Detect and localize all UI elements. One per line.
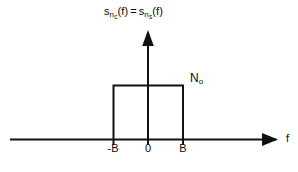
x-axis-arrowhead-icon <box>262 133 278 146</box>
tick-label-positive-b: B <box>171 143 195 154</box>
amplitude-label-base: N <box>190 71 199 85</box>
title-argument-left: (f) <box>118 5 129 17</box>
title-argument-right: (f) <box>152 5 163 17</box>
amplitude-label-subscript: o <box>199 77 203 86</box>
tick-label-zero: 0 <box>136 143 160 154</box>
spectral-density-figure: snc(f)=sns(f) No -B 0 B f <box>0 0 298 172</box>
amplitude-label: No <box>190 72 203 86</box>
plot-title: snc(f)=sns(f) <box>104 6 163 21</box>
x-axis-label: f <box>286 133 289 144</box>
tick-label-negative-b: -B <box>101 143 125 154</box>
y-axis-arrowhead-icon <box>142 30 154 46</box>
title-equals-sign: = <box>130 5 137 17</box>
